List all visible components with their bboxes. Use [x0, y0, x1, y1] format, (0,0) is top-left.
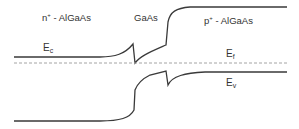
label-valence-band: Ev — [226, 77, 237, 89]
region-label-n-algaas: n+ - AlGaAs — [42, 12, 91, 23]
region-label-gaas: GaAs — [134, 12, 158, 23]
band-diagram: n+ - AlGaAs GaAs p+ - AlGaAs Ec Ef Ev — [0, 0, 299, 129]
valence-band-curve — [14, 71, 287, 121]
region-label-p-algaas: p+ - AlGaAs — [204, 15, 253, 26]
label-fermi-level: Ef — [226, 48, 235, 60]
label-conduction-band: Ec — [43, 42, 54, 54]
